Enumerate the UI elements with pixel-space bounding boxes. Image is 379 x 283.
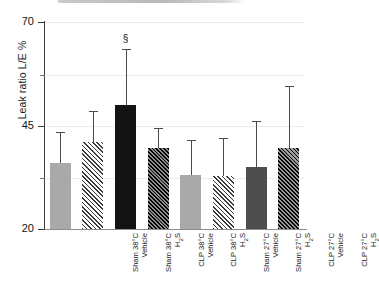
- bar-group: [148, 22, 169, 229]
- significance-marker: §: [116, 34, 136, 44]
- bar[interactable]: [82, 142, 103, 229]
- x-axis-label-line2: Vehicle: [141, 233, 150, 283]
- x-axis-label-line2: H2S: [174, 233, 183, 283]
- y-tick-label-20: 20: [22, 223, 34, 234]
- x-axis-label: Sham 27°CH2S: [295, 233, 312, 283]
- error-bar-cap: [252, 121, 261, 122]
- x-axis-label: CLP 27°CVehicle: [328, 233, 345, 283]
- x-axis-label-line2: H2S: [369, 233, 378, 283]
- x-axis-line: [40, 229, 307, 230]
- x-axis-label-line2: Vehicle: [271, 233, 280, 283]
- x-axis-label: CLP 27°CH2S: [361, 233, 378, 283]
- x-axis-label-line2: H2S: [239, 233, 248, 283]
- error-bar-cap: [285, 86, 294, 87]
- error-bar-cap: [122, 49, 131, 50]
- y-tick-20: [38, 229, 45, 230]
- x-axis-label: Sham 38°CVehicle: [132, 233, 149, 283]
- x-axis-label: Sham 27°CVehicle: [263, 233, 280, 283]
- y-tick-label-70: 70: [22, 16, 34, 27]
- bar[interactable]: [148, 148, 169, 229]
- bar-group: [115, 22, 136, 229]
- bar-group: [213, 22, 234, 229]
- y-tick-label-45: 45: [22, 120, 34, 131]
- x-axis-label-line1: CLP 27°C: [361, 233, 370, 283]
- bar-group: [180, 22, 201, 229]
- bar[interactable]: [213, 176, 234, 229]
- error-bar-cap: [89, 111, 98, 112]
- bar[interactable]: [180, 175, 201, 229]
- bar-group: [50, 22, 71, 229]
- bar[interactable]: [246, 167, 267, 229]
- error-bar-cap: [56, 132, 65, 133]
- x-axis-label: CLP 38°CH2S: [230, 233, 247, 283]
- bar-group: [246, 22, 267, 229]
- x-axis-label-line2: Vehicle: [337, 233, 346, 283]
- bar[interactable]: [278, 148, 299, 229]
- error-bar-cap: [154, 128, 163, 129]
- x-axis-label-line2: Vehicle: [206, 233, 215, 283]
- bar[interactable]: [50, 163, 71, 229]
- plot-area: [44, 22, 305, 229]
- bar-group: [82, 22, 103, 229]
- x-axis-label: CLP 38°CVehicle: [198, 233, 215, 283]
- bar-group: [278, 22, 299, 229]
- x-axis-label: Sham 38°CH2S: [165, 233, 182, 283]
- error-bar-cap: [187, 140, 196, 141]
- x-axis-label-line2: H2S: [304, 233, 313, 283]
- bar[interactable]: [115, 105, 136, 229]
- error-bar-cap: [219, 138, 228, 139]
- x-axis-label-line1: CLP 38°C: [198, 233, 207, 283]
